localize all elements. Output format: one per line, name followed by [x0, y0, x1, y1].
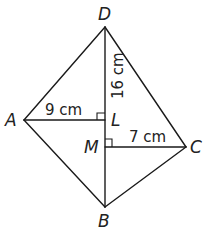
right-angle-marker-L: [97, 113, 105, 120]
measurement-MC: 7 cm: [129, 128, 166, 146]
vertex-label-B: B: [98, 211, 110, 231]
right-angle-marker-M: [105, 139, 112, 147]
measurement-AL: 9 cm: [45, 101, 82, 119]
measurement-DL: 16 cm: [109, 52, 127, 99]
edge-AB: [24, 120, 105, 207]
edge-CB: [105, 147, 186, 207]
vertex-label-M: M: [84, 137, 99, 157]
vertex-label-D: D: [98, 4, 111, 24]
quadrilateral-diagram: D A C B L M 9 cm 7 cm 16 cm: [0, 0, 206, 235]
vertex-label-C: C: [190, 137, 202, 157]
vertex-label-A: A: [4, 110, 17, 130]
vertex-label-L: L: [111, 110, 120, 130]
